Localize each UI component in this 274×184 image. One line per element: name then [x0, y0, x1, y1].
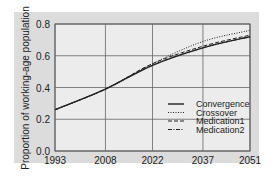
- x-tick-label: 2022: [141, 155, 164, 166]
- x-tick-label: 2037: [192, 155, 215, 166]
- x-tick-label: 2008: [94, 155, 117, 166]
- y-tick-label: 0.6: [36, 51, 50, 62]
- line-chart: 0.00.20.40.60.8 19932008202220372051 Pro…: [0, 0, 274, 184]
- y-tick-label: 0.4: [36, 83, 50, 94]
- y-tick-label: 0.8: [36, 19, 50, 30]
- x-tick-label: 2051: [239, 155, 262, 166]
- x-axis-ticks: 19932008202220372051: [44, 155, 262, 166]
- x-tick-label: 1993: [44, 155, 67, 166]
- y-axis-ticks: 0.00.20.40.60.8: [36, 19, 50, 157]
- y-tick-label: 0.2: [36, 114, 50, 125]
- y-axis-label: Proportion of working-age population: [20, 6, 31, 169]
- legend-label: Medication2: [196, 125, 245, 135]
